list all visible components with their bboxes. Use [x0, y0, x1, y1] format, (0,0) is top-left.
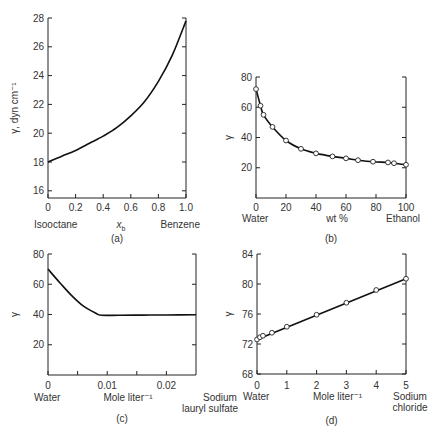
- data-point-marker: [284, 324, 289, 329]
- y-axis-label: γ: [223, 312, 234, 317]
- x-tick-label: 1: [284, 380, 290, 391]
- data-point-marker: [314, 151, 319, 156]
- x-tick-label: 80: [370, 202, 382, 213]
- data-point-marker: [270, 330, 275, 335]
- x-tick-label: 0.4: [96, 202, 110, 213]
- x-tick-label: 0: [254, 380, 260, 391]
- data-point-marker: [258, 103, 263, 108]
- y-axis-label: γ, dyn cm⁻¹: [9, 82, 20, 134]
- data-point-marker: [344, 156, 349, 161]
- y-tick-label: 16: [33, 185, 45, 196]
- data-point-marker: [404, 162, 409, 167]
- panel-a: 1618202224262800.20.40.60.81.0γ, dyn cm⁻…: [9, 13, 200, 245]
- figure: 1618202224262800.20.40.60.81.0γ, dyn cm⁻…: [0, 0, 435, 436]
- data-point-marker: [344, 300, 349, 305]
- y-tick-label: 20: [241, 162, 253, 173]
- y-tick-label: 80: [242, 279, 254, 290]
- x-tick-label: 4: [373, 380, 379, 391]
- x-tick-label: 0: [45, 202, 51, 213]
- data-point-marker: [374, 288, 379, 293]
- data-point-marker: [371, 159, 376, 164]
- x-tick-label: 100: [398, 202, 415, 213]
- data-point-marker: [270, 125, 275, 130]
- panel-caption: (a): [111, 233, 123, 244]
- y-tick-label: 80: [241, 72, 253, 83]
- data-curve: [48, 21, 186, 162]
- x-tick-label: 3: [344, 380, 350, 391]
- x-left-endpoint-label: Water: [243, 391, 270, 402]
- y-tick-label: 76: [242, 309, 254, 320]
- panel-caption: (c): [116, 413, 128, 424]
- panel-caption: (b): [325, 233, 337, 244]
- y-tick-label: 28: [33, 13, 45, 24]
- x-left-endpoint-label: Water: [242, 213, 269, 224]
- x-axis-label: xb: [116, 219, 126, 232]
- data-point-marker: [386, 160, 391, 165]
- x-tick-label: 1.0: [179, 202, 193, 213]
- x-axis-label: wt %: [325, 213, 348, 224]
- data-curve: [257, 279, 406, 340]
- x-tick-label: 0.2: [69, 202, 83, 213]
- x-tick-label: 0: [253, 202, 259, 213]
- y-axis-label: γ: [9, 312, 20, 317]
- panel-caption: (d): [325, 415, 337, 426]
- x-tick-label: 0: [45, 380, 51, 391]
- y-tick-label: 18: [33, 157, 45, 168]
- x-right-endpoint-label: Sodiumchloride: [392, 391, 427, 413]
- x-tick-label: 0.02: [157, 380, 177, 391]
- x-tick-label: 0.01: [97, 380, 117, 391]
- axes-frame: [48, 18, 186, 198]
- x-tick-label: 0.8: [151, 202, 165, 213]
- x-tick-label: 40: [310, 202, 322, 213]
- y-tick-label: 40: [33, 309, 45, 320]
- y-tick-label: 60: [33, 279, 45, 290]
- data-point-marker: [261, 112, 266, 117]
- data-point-marker: [330, 154, 335, 159]
- panel-d: 6872768084012345γMole liter⁻¹WaterSodium…: [223, 249, 428, 427]
- data-point-marker: [314, 312, 319, 317]
- y-tick-label: 24: [33, 70, 45, 81]
- y-tick-label: 68: [242, 369, 254, 380]
- axes-frame: [257, 254, 406, 374]
- data-point-marker: [404, 276, 409, 281]
- x-tick-label: 5: [403, 380, 409, 391]
- y-tick-label: 72: [242, 339, 254, 350]
- panel-b: 20406080020406080100γwt %WaterEthanol(b): [223, 72, 420, 245]
- x-tick-label: 20: [280, 202, 292, 213]
- y-tick-label: 60: [241, 102, 253, 113]
- x-right-endpoint-label: Ethanol: [386, 213, 420, 224]
- x-left-endpoint-label: Water: [34, 392, 61, 403]
- y-tick-label: 40: [241, 132, 253, 143]
- data-point-marker: [299, 146, 304, 151]
- data-point-marker: [261, 333, 266, 338]
- data-point-marker: [356, 158, 361, 163]
- y-axis-label: γ: [223, 135, 234, 140]
- y-tick-label: 26: [33, 41, 45, 52]
- x-axis-label: Mole liter⁻¹: [103, 392, 153, 403]
- x-tick-label: 0.6: [124, 202, 138, 213]
- y-tick-label: 20: [33, 128, 45, 139]
- y-tick-label: 84: [242, 249, 254, 260]
- y-tick-label: 80: [33, 249, 45, 260]
- x-left-endpoint-label: Isooctane: [34, 219, 78, 230]
- x-right-endpoint-label: Benzene: [161, 219, 201, 230]
- data-curve: [256, 89, 406, 165]
- y-tick-label: 22: [33, 99, 45, 110]
- panel-c: 2040608000.010.02γMole liter⁻¹WaterSodiu…: [9, 249, 239, 425]
- x-tick-label: 2: [314, 380, 320, 391]
- x-tick-label: 60: [340, 202, 352, 213]
- x-axis-label: Mole liter⁻¹: [313, 391, 363, 402]
- data-curve: [48, 269, 196, 315]
- x-right-endpoint-label: Sodiumlauryl sulfate: [182, 392, 239, 414]
- data-point-marker: [254, 87, 259, 92]
- data-point-marker: [392, 161, 397, 166]
- y-tick-label: 20: [33, 339, 45, 350]
- data-point-marker: [284, 138, 289, 143]
- axes-frame: [256, 77, 406, 198]
